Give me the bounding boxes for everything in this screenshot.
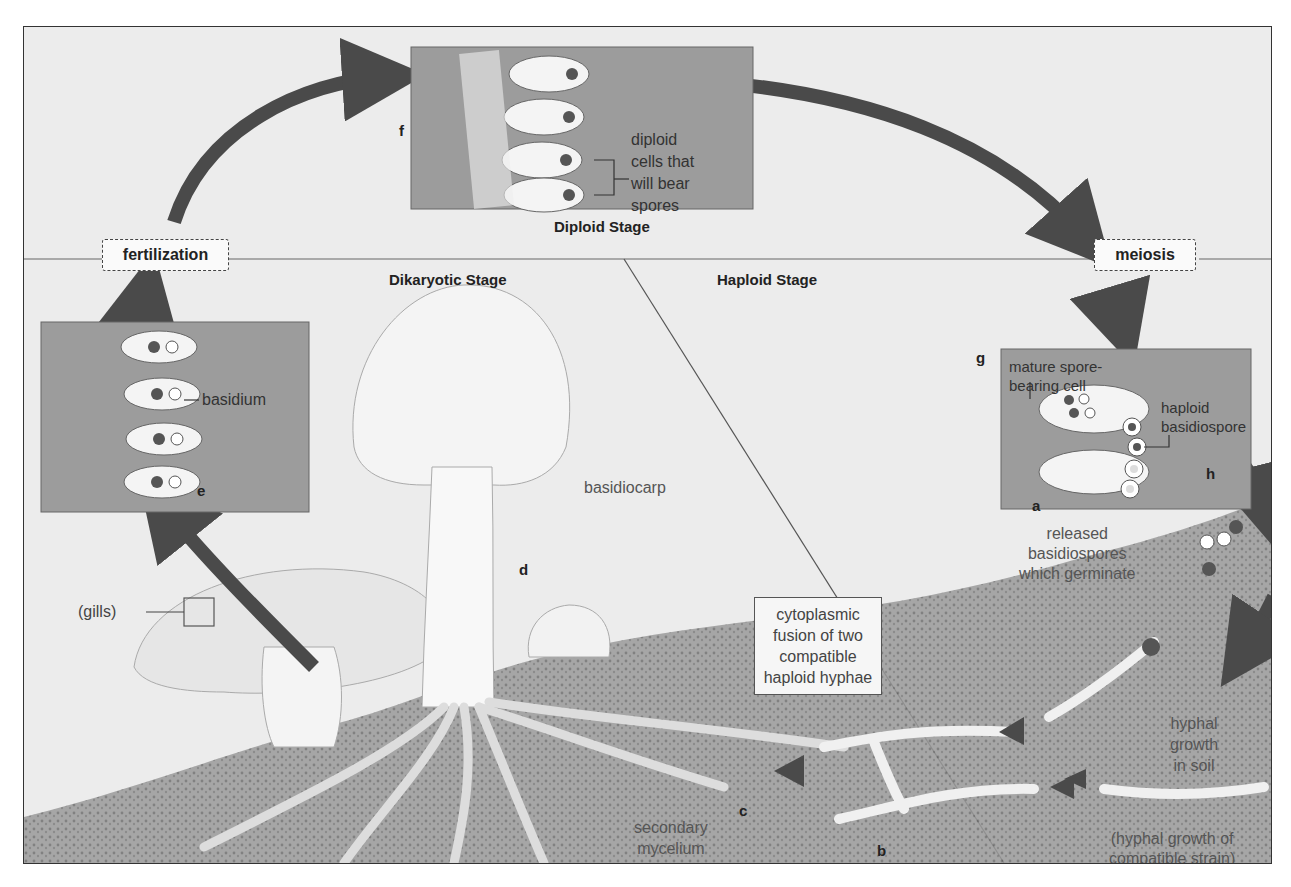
label-h: h [1206,465,1215,482]
mushroom-button [528,605,610,657]
life-cycle-diagram: Diploid Stage Dikaryotic Stage Haploid S… [23,26,1272,864]
haploid-stage-label: Haploid Stage [717,271,817,289]
basidiocarp-cap [353,285,570,485]
label-a: a [1032,497,1040,514]
label-g: g [976,349,985,366]
basidiocarp-label: basidiocarp [584,479,666,497]
secondary-mycelium-label: secondary mycelium [634,817,708,859]
compatible-strain-label: (hyphal growth of compatible strain) [1109,829,1235,864]
label-f: f [399,122,404,139]
germinating-spore [1142,638,1160,656]
mature-spore-bearing-cell-label: mature spore- bearing cell [1009,357,1102,395]
basidiocarp-stalk [422,467,494,707]
fertilization-event: fertilization [102,239,229,271]
diploid-cells-label: diploid cells that will bear spores [631,129,694,217]
dikaryotic-stage-label: Dikaryotic Stage [389,271,507,289]
meiosis-event: meiosis [1094,239,1196,271]
label-e: e [197,482,205,499]
label-c: c [739,802,747,819]
released-basidiospores-label: released basidiospores which germinate [1019,524,1136,584]
haploid-basidiospore-label: haploid basidiospore [1161,398,1246,436]
label-d: d [519,561,528,578]
hyphal-growth-in-soil-label: hyphal growth in soil [1170,713,1218,776]
label-b: b [877,842,886,859]
gills-label: (gills) [78,603,116,621]
basidium-label: basidium [202,391,266,409]
cytoplasmic-fusion-label: cytoplasmic fusion of two compatible hap… [754,597,882,695]
diploid-stage-label: Diploid Stage [554,218,650,236]
